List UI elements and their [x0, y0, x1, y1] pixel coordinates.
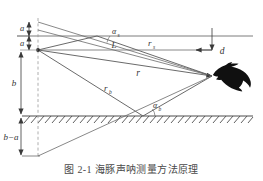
label-alpha-b: α b: [153, 101, 162, 112]
dolphin-silhouette: [213, 62, 251, 91]
label-alpha-s-subscript: s: [118, 32, 120, 38]
label-L: L: [110, 40, 116, 50]
label-alpha-b-subscript: b: [159, 106, 162, 112]
label-rs: r s: [148, 38, 155, 50]
label-rb-symbol: r: [104, 83, 108, 93]
figure-caption: 图 2-1 海豚声呐测量方法原理: [0, 163, 263, 181]
direct-ray-r: [38, 50, 212, 76]
label-a-top: a: [20, 23, 24, 33]
label-a-lower: a: [20, 38, 24, 48]
label-rs-symbol: r: [148, 38, 152, 48]
surface-reflected-ray-rs: [38, 36, 212, 76]
label-d: d: [220, 46, 225, 56]
sonar-geometry-diagram: a a b b−a d α s α: [0, 0, 263, 181]
bottom-reflected-ray-rb: [38, 50, 212, 116]
label-rb: r b: [104, 83, 112, 95]
image-source-upper-ray: [38, 22, 212, 76]
image-source-ray: [38, 30, 212, 76]
dimension-d: [196, 28, 212, 50]
seabed-hatching: [24, 116, 253, 123]
label-r: r: [136, 68, 140, 78]
label-b: b: [12, 78, 17, 88]
label-rs-subscript: s: [153, 44, 155, 50]
label-alpha-s-symbol: α: [112, 27, 117, 36]
figure-container: a a b b−a d α s α: [0, 0, 263, 181]
label-alpha-s: α s: [112, 27, 120, 38]
label-rb-subscript: b: [109, 89, 112, 95]
label-b-minus-a: b−a: [3, 132, 19, 142]
label-alpha-b-symbol: α: [153, 101, 158, 110]
